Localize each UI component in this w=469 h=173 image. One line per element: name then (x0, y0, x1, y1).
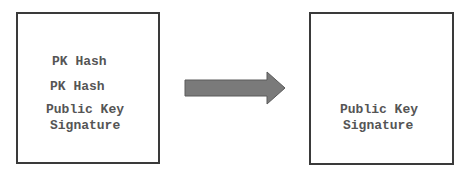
right-box (309, 12, 454, 165)
left-box-line-2: PK Hash (50, 79, 105, 94)
left-box-line-1: PK Hash (52, 54, 107, 69)
left-box-line-3: Public Key (46, 102, 124, 117)
left-box-line-4: Signature (50, 118, 120, 133)
right-arrow-icon (183, 70, 287, 106)
right-box-line-2: Signature (343, 118, 413, 133)
right-box-line-1: Public Key (340, 102, 418, 117)
